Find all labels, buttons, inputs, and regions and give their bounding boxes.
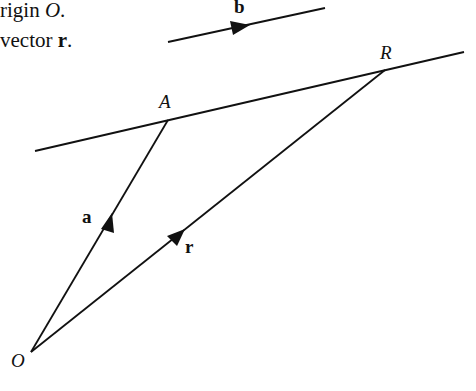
vector-diagram: rigin O. vector r. b R A a r O: [0, 0, 476, 391]
line-through-A-R: [35, 52, 464, 151]
vector-b-arrowhead: [230, 21, 250, 35]
label-O: O: [11, 350, 25, 372]
vector-a-line: [31, 120, 168, 352]
label-A: A: [159, 91, 171, 113]
label-a: a: [82, 206, 92, 228]
vector-r-arrowhead: [167, 229, 185, 246]
label-r: r: [185, 236, 193, 258]
diagram-lines: [0, 0, 476, 391]
label-R: R: [380, 42, 392, 64]
label-b: b: [234, 0, 245, 18]
